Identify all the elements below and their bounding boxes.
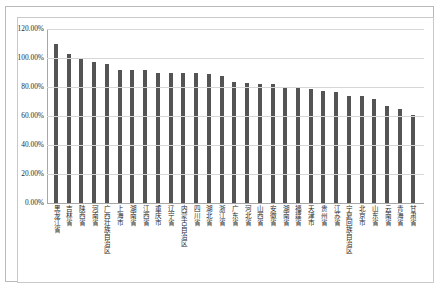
bar <box>220 76 224 203</box>
bar <box>207 74 211 203</box>
gridline <box>47 29 424 30</box>
x-axis-tick-label: 宁夏回族自治区 <box>345 205 352 254</box>
bar <box>143 70 147 203</box>
bar <box>194 73 198 203</box>
x-axis-tick-label: 上海市 <box>116 205 123 226</box>
gridline <box>47 174 424 175</box>
x-axis-tick-label: 青海省 <box>396 205 403 226</box>
x-axis-tick-label: 黑龙江省 <box>53 205 60 233</box>
bar <box>372 99 376 203</box>
bar <box>232 82 236 203</box>
bar <box>398 109 402 203</box>
bar <box>385 106 389 203</box>
x-axis-tick-label: 湖南省 <box>282 205 289 226</box>
x-axis-tick-label: 湖南省 <box>129 205 136 226</box>
x-axis-tick-label: 山西省 <box>256 205 263 226</box>
bar <box>334 92 338 203</box>
bar <box>181 73 185 203</box>
x-axis-tick-label: 河北省 <box>244 205 251 226</box>
y-axis-tick-label: 40.00% <box>0 141 44 149</box>
x-axis-tick-label: 福建省 <box>294 205 301 226</box>
x-axis-tick-label: 安徽省 <box>269 205 276 226</box>
bar <box>92 62 96 203</box>
bar <box>79 59 83 203</box>
x-axis-tick-label: 贵州省 <box>320 205 327 226</box>
bar <box>258 84 262 203</box>
x-axis-tick-label: 广东省 <box>231 205 238 226</box>
bar <box>169 73 173 203</box>
gridline <box>47 87 424 88</box>
bar <box>411 115 415 203</box>
bar <box>130 70 134 203</box>
x-axis-tick-label: 广西壮族自治区 <box>103 205 110 254</box>
bar <box>105 64 109 203</box>
x-axis-tick-label: 湖北省 <box>205 205 212 226</box>
gridline <box>47 145 424 146</box>
x-axis-tick-label: 山东省 <box>371 205 378 226</box>
x-axis-tick-labels: 黑龙江省吉林省陕西省河南省广西壮族自治区上海市湖南省江西省重庆市辽宁省内蒙古自治… <box>47 205 424 285</box>
y-axis-tick-label: 0.00% <box>0 199 44 207</box>
bar <box>118 70 122 203</box>
x-axis-tick-label: 北京市 <box>358 205 365 226</box>
plot-area <box>47 29 424 203</box>
x-axis-tick-label: 重庆市 <box>154 205 161 226</box>
y-axis-tick-label: 60.00% <box>0 112 44 120</box>
gridline <box>47 116 424 117</box>
y-axis-tick-label: 20.00% <box>0 170 44 178</box>
x-axis-tick-label: 陕西省 <box>78 205 85 226</box>
x-axis-tick-label: 河南省 <box>91 205 98 226</box>
bar <box>67 54 71 203</box>
x-axis-tick-label: 内蒙古自治区 <box>180 205 187 247</box>
x-axis-tick-label: 江西省 <box>142 205 149 226</box>
bar <box>245 83 249 203</box>
x-axis-tick-label: 江苏省 <box>333 205 340 226</box>
bar <box>156 73 160 204</box>
x-axis-tick-label: 四川省 <box>193 205 200 226</box>
bar <box>360 96 364 203</box>
bar <box>321 91 325 203</box>
bar <box>271 84 275 203</box>
x-axis-baseline <box>47 203 424 204</box>
y-axis-tick-label: 100.00% <box>0 54 44 62</box>
bar <box>54 44 58 204</box>
y-axis-tick-label: 80.00% <box>0 83 44 91</box>
gridline <box>47 58 424 59</box>
x-axis-tick-label: 吉林省 <box>65 205 72 226</box>
y-axis-tick-labels: 120.00%100.00%80.00%60.00%40.00%20.00%0.… <box>0 29 44 203</box>
y-axis-tick-label: 120.00% <box>0 25 44 33</box>
x-axis-tick-label: 天津市 <box>307 205 314 226</box>
bar <box>347 96 351 203</box>
x-axis-tick-label: 甘肃省 <box>409 205 416 226</box>
x-axis-tick-label: 浙江省 <box>218 205 225 226</box>
x-axis-tick-label: 云南省 <box>384 205 391 226</box>
bar <box>309 89 313 203</box>
x-axis-tick-label: 辽宁省 <box>167 205 174 226</box>
